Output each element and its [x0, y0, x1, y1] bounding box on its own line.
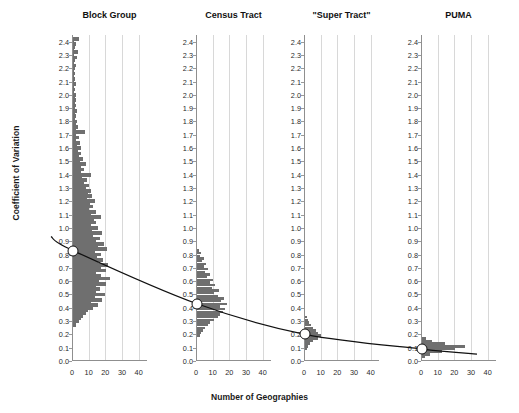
gridline-vertical	[471, 35, 472, 361]
y-tick-label: 1.6	[59, 144, 69, 153]
y-tick-label: 1.8	[291, 117, 301, 126]
y-tick-mark	[301, 281, 304, 282]
histogram-bar	[197, 324, 208, 326]
y-tick-label: 2.1	[59, 77, 69, 86]
histogram-bar	[422, 345, 465, 347]
y-tick-label: 0.0	[408, 357, 418, 366]
y-tick-mark	[301, 42, 304, 43]
y-tick-mark	[418, 361, 421, 362]
y-tick-mark	[69, 321, 72, 322]
y-tick-mark	[193, 215, 196, 216]
y-tick-mark	[301, 161, 304, 162]
y-tick-label: 0.1	[59, 343, 69, 352]
y-tick-label: 1.3	[408, 184, 418, 193]
median-marker	[300, 329, 311, 340]
y-tick-label: 1.8	[59, 117, 69, 126]
y-tick-label: 0.2	[59, 330, 69, 339]
y-tick-label: 1.5	[59, 157, 69, 166]
y-tick-label: 0.1	[183, 343, 193, 352]
y-tick-mark	[301, 121, 304, 122]
y-tick-mark	[418, 215, 421, 216]
y-tick-mark	[193, 95, 196, 96]
y-tick-mark	[418, 228, 421, 229]
y-tick-label: 1.9	[59, 104, 69, 113]
y-tick-mark	[193, 241, 196, 242]
y-tick-mark	[418, 121, 421, 122]
y-tick-mark	[193, 42, 196, 43]
y-tick-mark	[69, 68, 72, 69]
y-tick-label: 1.5	[291, 157, 301, 166]
y-tick-mark	[418, 135, 421, 136]
y-tick-mark	[301, 108, 304, 109]
y-tick-mark	[301, 215, 304, 216]
y-tick-mark	[69, 308, 72, 309]
y-tick-mark	[418, 294, 421, 295]
y-tick-label: 1.9	[183, 104, 193, 113]
y-tick-label: 0.7	[183, 263, 193, 272]
y-tick-mark	[418, 68, 421, 69]
histogram-bar	[197, 334, 200, 336]
panel-puma: PUMA 0.00.10.20.30.40.50.60.70.80.91.01.…	[421, 35, 496, 361]
histogram-bar	[305, 348, 307, 350]
y-tick-mark	[193, 161, 196, 162]
y-tick-mark	[301, 201, 304, 202]
gridline-vertical	[438, 35, 439, 361]
plot-area: 0.00.10.20.30.40.50.60.70.80.91.01.11.21…	[421, 35, 496, 361]
y-tick-mark	[69, 121, 72, 122]
y-tick-mark	[193, 55, 196, 56]
y-tick-label: 0.5	[291, 290, 301, 299]
x-tick-label: 10	[209, 368, 217, 377]
gridline-vertical	[139, 35, 140, 361]
y-tick-mark	[418, 321, 421, 322]
y-tick-mark	[418, 255, 421, 256]
plot-area: 0.00.10.20.30.40.50.60.70.80.91.01.11.21…	[196, 35, 271, 361]
y-tick-label: 0.4	[408, 303, 418, 312]
y-tick-mark	[418, 268, 421, 269]
y-tick-mark	[69, 268, 72, 269]
y-tick-label: 0.2	[183, 330, 193, 339]
y-tick-label: 1.2	[291, 197, 301, 206]
y-tick-label: 1.7	[183, 130, 193, 139]
plot-area: 0.00.10.20.30.40.50.60.70.80.91.01.11.21…	[304, 35, 379, 361]
histogram-bar	[197, 332, 201, 334]
y-tick-mark	[301, 255, 304, 256]
gridline-vertical	[229, 35, 230, 361]
gridline-vertical	[263, 35, 264, 361]
y-tick-mark	[69, 108, 72, 109]
y-tick-label: 2.0	[291, 90, 301, 99]
median-marker	[417, 344, 428, 355]
x-tick-label: 0	[70, 368, 74, 377]
histogram-bar	[197, 321, 210, 323]
y-tick-mark	[69, 348, 72, 349]
y-tick-label: 0.4	[291, 303, 301, 312]
y-tick-label: 1.7	[59, 130, 69, 139]
y-tick-mark	[418, 281, 421, 282]
y-tick-label: 2.3	[291, 50, 301, 59]
y-tick-label: 1.0	[408, 223, 418, 232]
y-tick-mark	[418, 241, 421, 242]
histogram-bar	[305, 321, 309, 323]
histogram-bar	[73, 323, 76, 327]
x-tick-label: 40	[367, 368, 375, 377]
y-tick-mark	[193, 121, 196, 122]
y-tick-label: 2.2	[183, 64, 193, 73]
y-tick-mark	[69, 201, 72, 202]
gridline-vertical	[122, 35, 123, 361]
histogram-bar	[197, 268, 208, 270]
histogram-bar	[422, 356, 425, 358]
y-tick-mark	[418, 42, 421, 43]
y-tick-label: 2.0	[59, 90, 69, 99]
y-tick-mark	[301, 148, 304, 149]
y-tick-mark	[193, 255, 196, 256]
gridline-vertical	[105, 35, 106, 361]
y-tick-mark	[301, 361, 304, 362]
y-tick-mark	[301, 55, 304, 56]
median-marker	[192, 298, 203, 309]
y-tick-label: 0.5	[408, 290, 418, 299]
y-tick-label: 2.4	[291, 37, 301, 46]
y-tick-label: 0.1	[291, 343, 301, 352]
y-axis-label: Coefficient of Variation	[11, 93, 21, 253]
y-tick-label: 1.0	[59, 223, 69, 232]
x-axis-line	[196, 360, 271, 361]
y-tick-mark	[193, 321, 196, 322]
